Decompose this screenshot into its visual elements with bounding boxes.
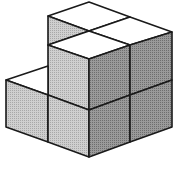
cube-stack-figure [0,0,185,184]
cube-diagram [0,0,185,184]
